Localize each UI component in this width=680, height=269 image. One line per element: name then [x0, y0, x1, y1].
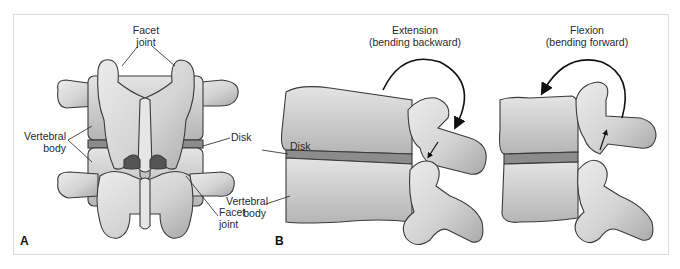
label-line: Facet [126, 24, 166, 36]
label-line: Vertebral [226, 195, 266, 207]
panel-letter-a: A [20, 234, 29, 248]
label-line: body [226, 207, 266, 219]
panel-b-flexion [500, 82, 657, 243]
label-line: body [16, 142, 66, 154]
motion-title: Extension [360, 24, 470, 36]
motion-subtitle: (bending forward) [532, 36, 642, 48]
label-extension: Extension (bending backward) [360, 24, 470, 48]
label-line: joint [219, 218, 245, 230]
label-flexion: Flexion (bending forward) [532, 24, 642, 48]
motion-title: Flexion [532, 24, 642, 36]
panel-b-extension [282, 87, 487, 245]
label-vertebral-body-b: Vertebral body [226, 195, 266, 219]
panel-a-vertebrae [58, 60, 239, 238]
label-line: Vertebral [16, 130, 66, 142]
panel-letter-b: B [275, 234, 284, 248]
label-disk-a: Disk [231, 131, 251, 143]
label-vertebral-body-a: Vertebral body [16, 130, 66, 154]
label-disk-b: Disk [290, 140, 310, 152]
label-line: joint [126, 36, 166, 48]
motion-subtitle: (bending backward) [360, 36, 470, 48]
label-facet-joint-top: Facet joint [126, 24, 166, 48]
